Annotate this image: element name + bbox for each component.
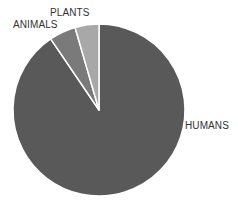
label-plants: PLANTS — [50, 7, 90, 18]
label-animals: ANIMALS — [13, 19, 58, 30]
pie-chart — [0, 0, 238, 209]
pie-slices — [13, 24, 185, 196]
label-humans: HUMANS — [185, 120, 229, 131]
